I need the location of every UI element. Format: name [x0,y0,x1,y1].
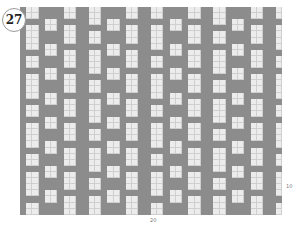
row-count-label: 10 [286,183,292,189]
knitting-chart-grid [20,7,282,215]
chart-cell [276,209,282,215]
column-count-label: 20 [150,217,156,223]
chart-number-badge: 27 [2,8,26,32]
